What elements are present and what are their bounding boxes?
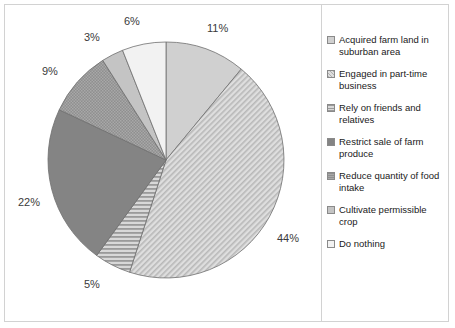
- pie-chart-svg: [0, 0, 320, 328]
- legend-item[interactable]: Cultivate permissible crop: [327, 204, 445, 227]
- legend-item-label: Reduce quantity of food intake: [339, 170, 445, 193]
- slice-label-3: 3%: [84, 31, 100, 43]
- legend-item-label: Restrict sale of farm produce: [339, 136, 445, 159]
- legend-item[interactable]: Acquired farm land in suburban area: [327, 34, 445, 57]
- slice-label-5: 5%: [84, 278, 100, 290]
- legend-swatch-icon: [327, 138, 335, 146]
- legend-item[interactable]: Rely on friends and relatives: [327, 102, 445, 125]
- legend-swatch-icon: [327, 206, 335, 214]
- slice-label-44: 44%: [277, 232, 299, 244]
- legend-item-label: Do nothing: [339, 238, 385, 250]
- legend-divider: [321, 5, 322, 322]
- legend-item-label: Acquired farm land in suburban area: [339, 34, 445, 57]
- slice-label-9: 9%: [42, 65, 58, 77]
- legend-swatch-icon: [327, 172, 335, 180]
- legend-item[interactable]: Do nothing: [327, 238, 445, 250]
- legend-swatch-icon: [327, 36, 335, 44]
- legend-swatch-icon: [327, 70, 335, 78]
- legend-item-label: Engaged in part-time business: [339, 68, 445, 91]
- slice-label-11: 11%: [207, 22, 228, 34]
- legend-swatch-icon: [327, 104, 335, 112]
- slice-label-6: 6%: [124, 15, 140, 27]
- chart-legend: Acquired farm land in suburban area Enga…: [327, 34, 445, 261]
- legend-item-label: Rely on friends and relatives: [339, 102, 445, 125]
- chart-figure: 11% 44% 5% 22% 9% 3% 6% Acquired farm la…: [0, 0, 455, 328]
- legend-swatch-icon: [327, 240, 335, 248]
- legend-item[interactable]: Reduce quantity of food intake: [327, 170, 445, 193]
- legend-item-label: Cultivate permissible crop: [339, 204, 445, 227]
- legend-item[interactable]: Restrict sale of farm produce: [327, 136, 445, 159]
- slice-label-22: 22%: [18, 196, 40, 208]
- pie-slices-group: [48, 42, 284, 278]
- pie-plot-area: 11% 44% 5% 22% 9% 3% 6%: [0, 0, 320, 328]
- legend-item[interactable]: Engaged in part-time business: [327, 68, 445, 91]
